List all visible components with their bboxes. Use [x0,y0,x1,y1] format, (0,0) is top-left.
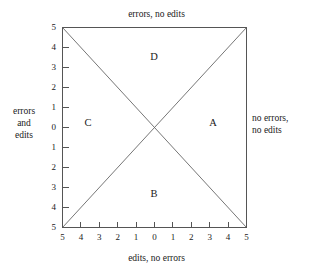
y-tick-label: 0 [46,122,56,132]
y-tick-label: 3 [46,182,56,192]
x-tick-label: 3 [93,232,105,242]
y-tick-label: 3 [46,62,56,72]
y-tick-label: 1 [46,142,56,152]
y-axis-ticks [63,28,69,228]
x-tick-label: 5 [241,232,253,242]
x-axis-ticks [63,222,247,228]
x-tick-label: 2 [185,232,197,242]
x-tick-label: 1 [130,232,142,242]
y-tick-label: 2 [46,162,56,172]
x-tick-label: 1 [167,232,179,242]
x-tick-label: 2 [112,232,124,242]
diagram-root: errors, no edits edits, no errors errors… [0,0,313,270]
x-tick-label: 3 [204,232,216,242]
x-tick-label: 0 [149,232,161,242]
region-label-a: A [205,117,221,128]
region-label-b: B [146,188,162,199]
x-tick-label: 5 [57,232,69,242]
y-tick-label: 5 [46,222,56,232]
y-tick-label: 4 [46,42,56,52]
region-label-d: D [146,51,162,62]
y-tick-label: 5 [46,22,56,32]
y-tick-label: 1 [46,102,56,112]
y-tick-label: 2 [46,82,56,92]
y-tick-label: 4 [46,202,56,212]
region-label-c: C [80,117,96,128]
x-tick-label: 4 [222,232,234,242]
x-tick-label: 4 [75,232,87,242]
